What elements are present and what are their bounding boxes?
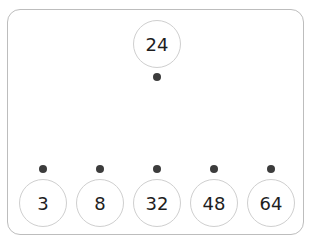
connector-dot-5 bbox=[267, 165, 275, 173]
node-bottom-2[interactable]: 8 bbox=[76, 179, 124, 227]
node-bottom-3[interactable]: 32 bbox=[133, 179, 181, 227]
node-bottom-1[interactable]: 3 bbox=[19, 179, 67, 227]
node-bottom-4[interactable]: 48 bbox=[190, 179, 238, 227]
connector-dot-4 bbox=[210, 165, 218, 173]
connector-dot-2 bbox=[96, 165, 104, 173]
connector-dot-top bbox=[153, 73, 161, 81]
node-top[interactable]: 24 bbox=[133, 20, 181, 68]
node-value: 64 bbox=[260, 193, 283, 214]
node-value: 48 bbox=[203, 193, 226, 214]
node-value: 3 bbox=[37, 193, 48, 214]
node-bottom-5[interactable]: 64 bbox=[247, 179, 295, 227]
connector-dot-3 bbox=[153, 165, 161, 173]
node-value: 32 bbox=[146, 193, 169, 214]
node-value: 8 bbox=[94, 193, 105, 214]
connector-dot-1 bbox=[39, 165, 47, 173]
node-value: 24 bbox=[146, 34, 169, 55]
